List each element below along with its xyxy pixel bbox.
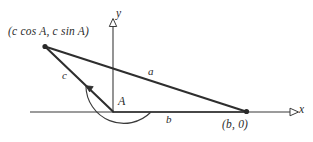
side-a-label: a xyxy=(148,66,154,77)
y-axis-arrowhead xyxy=(109,19,116,27)
geometry-figure: (c cos A, c sin A) (b, 0) a b c A y x xyxy=(0,0,313,142)
vertex-right-dot xyxy=(244,109,249,114)
vertex-upper-left-dot xyxy=(42,44,47,49)
diagram-canvas xyxy=(0,0,313,142)
side-c-line xyxy=(45,47,113,112)
side-a-line xyxy=(45,47,246,112)
y-axis xyxy=(109,19,116,113)
angle-a-label: A xyxy=(118,95,125,107)
side-b-label: b xyxy=(166,114,172,125)
y-axis-label: y xyxy=(116,8,121,20)
x-axis-arrowhead xyxy=(290,108,299,116)
x-axis-label: x xyxy=(299,104,304,116)
vertex-right-label: (b, 0) xyxy=(222,119,248,131)
vertex-upper-left-label: (c cos A, c sin A) xyxy=(8,26,89,38)
side-c-label: c xyxy=(62,70,67,81)
